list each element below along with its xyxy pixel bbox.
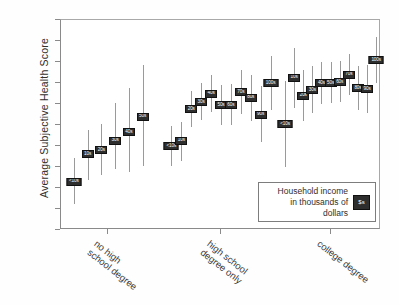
data-point-marker: 30s [109,137,121,145]
x-tick-mark [107,229,108,234]
data-point-marker: 50s [137,113,149,121]
x-category-label: college degree [315,238,371,285]
legend-line-1: Household income [264,186,348,197]
data-point-marker: 10s [175,137,187,145]
legend-box: Household income in thousands of dollars… [258,182,376,222]
data-point-marker: 30s [195,98,207,106]
data-point-marker: 80s [245,94,257,102]
legend-swatch: $s [353,195,370,210]
data-point-marker: 20s [95,146,107,154]
data-point-marker: 60s [225,101,237,109]
data-point-marker: 40s [205,90,217,98]
data-point-marker: <10s [66,178,81,186]
y-axis-title: Average Subjective Health Score [38,8,50,228]
x-tick-mark [220,229,221,234]
x-category-label: no highschool degree [86,238,147,292]
data-point-marker: 100s [369,56,384,64]
data-point-marker: <10s [278,120,293,128]
x-category-label: high schooldegree only [198,238,251,286]
data-point-marker: 40s [123,128,135,136]
data-point-marker: 90s [361,85,373,93]
data-point-marker: 20s [185,105,197,113]
data-point-marker: 100s [263,79,278,87]
data-point-marker: 10s [82,150,94,158]
data-point-marker: 60s [334,78,346,86]
legend-text: Household income in thousands of dollars [264,186,353,219]
legend-line-2: in thousands of dollars [264,197,348,219]
y-tick-mark [55,229,60,230]
data-point-marker: 70s [343,71,355,79]
data-point-marker: 10s [288,74,300,82]
chart-figure: Average Subjective Health Score 0.0.2.4.… [0,0,399,305]
x-tick-mark [330,229,331,234]
data-point-marker: 90s [255,111,267,119]
data-point-marker: 30s [306,86,318,94]
